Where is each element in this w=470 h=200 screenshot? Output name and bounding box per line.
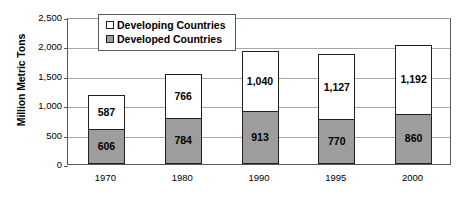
bar-segment-developed[interactable]: 913 <box>242 110 279 164</box>
legend-item-developed: Developed Countries <box>106 32 226 46</box>
bar-segment-developing[interactable]: 587 <box>88 95 125 130</box>
bar-segment-developed[interactable]: 860 <box>395 113 432 164</box>
y-axis-tick-mark <box>64 166 68 167</box>
bar-value-label: 1,192 <box>400 74 426 85</box>
bar-group[interactable]: 7701,127 <box>318 52 355 164</box>
legend-item-developing: Developing Countries <box>106 18 226 32</box>
filled-square-icon <box>106 35 114 43</box>
bar-value-label: 1,040 <box>247 76 273 87</box>
stacked-bar-chart: Million Metric Tons 2,5002,0001,5001,000… <box>0 0 470 200</box>
x-axis-tick-label: 2000 <box>374 172 451 183</box>
y-axis-tick-label: 0 <box>26 160 62 170</box>
y-axis-tick-labels: 2,5002,0001,5001,0005000 <box>26 0 62 200</box>
bar-value-label: 606 <box>98 141 116 152</box>
x-axis-tick-label: 1980 <box>144 172 221 183</box>
bar-segment-developed[interactable]: 606 <box>88 128 125 164</box>
x-axis-tick-label: 1995 <box>297 172 374 183</box>
bar-value-label: 766 <box>174 91 192 102</box>
y-axis-tick-label: 2,000 <box>26 42 62 52</box>
bar-segment-developing[interactable]: 1,192 <box>395 45 432 115</box>
legend-label-developed: Developed Countries <box>117 33 222 45</box>
x-axis-tick-label: 1990 <box>221 172 298 183</box>
bar-segment-developed[interactable]: 770 <box>318 119 355 164</box>
x-axis-tick-label: 1970 <box>67 172 144 183</box>
unfilled-square-icon <box>106 21 114 29</box>
bar-value-label: 784 <box>174 135 192 146</box>
y-axis-tick-label: 2,500 <box>26 13 62 23</box>
bar-value-label: 587 <box>98 107 116 118</box>
bar-segment-developing[interactable]: 766 <box>165 74 202 119</box>
bar-group[interactable]: 606587 <box>88 94 125 164</box>
bar-value-label: 913 <box>251 132 269 143</box>
chart-legend: Developing Countries Developed Countries <box>98 14 236 51</box>
bar-segment-developing[interactable]: 1,040 <box>242 51 279 112</box>
bar-segment-developed[interactable]: 784 <box>165 118 202 164</box>
bar-group[interactable]: 8601,192 <box>395 43 432 164</box>
legend-label-developing: Developing Countries <box>117 19 226 31</box>
bar-group[interactable]: 9131,040 <box>242 49 279 164</box>
y-axis-tick-label: 500 <box>26 131 62 141</box>
bar-value-label: 1,127 <box>324 82 350 93</box>
y-axis-tick-label: 1,500 <box>26 72 62 82</box>
bar-group[interactable]: 784766 <box>165 73 202 164</box>
x-axis-tick-labels: 19701980199019952000 <box>67 172 451 188</box>
bar-value-label: 860 <box>405 133 423 144</box>
bar-value-label: 770 <box>328 136 346 147</box>
y-axis-tick-label: 1,000 <box>26 101 62 111</box>
bar-segment-developing[interactable]: 1,127 <box>318 54 355 120</box>
